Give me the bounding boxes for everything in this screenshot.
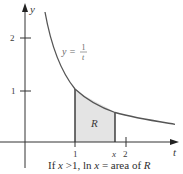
ln-area-diagram: y t 2 1 1 x 2 y = 1 t R If x >1, ln x = … [0, 0, 183, 174]
x-tick-label-1: 1 [73, 149, 78, 159]
caption: If x >1, ln x = area of R [48, 159, 151, 171]
caption-prefix: If [48, 159, 58, 171]
x-axis-arrow-icon [170, 139, 179, 145]
curve-label-numerator: 1 [82, 43, 86, 52]
caption-r: R [143, 159, 151, 171]
caption-eq: = area of [99, 159, 144, 171]
curve-label-denominator: t [82, 53, 85, 62]
x-tick-label-2: 2 [123, 149, 128, 159]
y-tick-label-1: 1 [11, 86, 16, 96]
x-axis-label: t [173, 146, 177, 158]
region-label: R [90, 117, 98, 129]
curve-one-over-t [45, 12, 175, 124]
y-axis-label: y [29, 3, 35, 15]
curve-label: y = 1 t [61, 43, 87, 62]
y-axis-arrow-icon [22, 3, 28, 12]
curve-label-lhs: y = [61, 46, 76, 57]
region-r [75, 89, 115, 142]
x-marker-label: x [111, 149, 116, 159]
caption-cond: >1, ln [63, 159, 94, 171]
y-tick-label-2: 2 [10, 33, 15, 43]
